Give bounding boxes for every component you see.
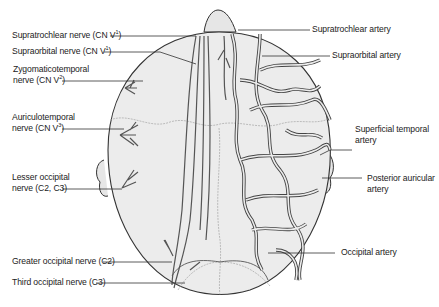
label-auriculotemporal-nerve: Auriculotemporal nerve (CN V3) — [12, 112, 75, 134]
label-posterior-auricular-artery: Posterior auricular artery — [367, 173, 435, 195]
label-supraorbital-nerve: Supraorbital nerve (CN V1) — [12, 46, 111, 57]
nose — [204, 10, 236, 32]
label-lesser-occipital-nerve: Lesser occipital nerve (C2, C3) — [12, 172, 70, 194]
head-outline — [108, 32, 330, 295]
label-supratrochlear-artery: Supratrochlear artery — [312, 24, 391, 35]
label-supraorbital-artery: Supraorbital artery — [332, 50, 401, 61]
label-third-occipital-nerve: Third occipital nerve (C3) — [12, 277, 105, 288]
left-ear — [97, 160, 108, 196]
label-zygomaticotemporal-nerve: Zygomaticotemporal nerve (CN V2) — [13, 64, 89, 86]
label-supratrochlear-nerve: Supratrochlear nerve (CN V1) — [12, 30, 121, 41]
label-greater-occipital-nerve: Greater occipital nerve (C2) — [12, 256, 115, 267]
label-occipital-artery: Occipital artery — [341, 247, 397, 258]
label-superficial-temporal-artery: Superficial temporal artery — [355, 124, 429, 146]
